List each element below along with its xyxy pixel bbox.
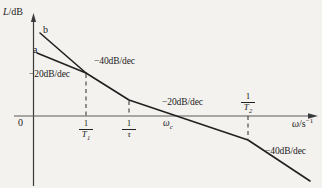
y-axis-label-unit: /dB	[9, 6, 23, 17]
tick-1-numerator: 1	[79, 119, 93, 128]
tick-2-numerator: 1	[122, 119, 136, 128]
crossover-symbol: ω	[163, 118, 170, 128]
tick-2-denominator: τ	[122, 130, 136, 139]
slope-label-minus20-mid: −20dB/dec	[162, 98, 203, 108]
slope-label-minus20-initial: −20dB/dec	[29, 70, 70, 80]
x-axis-label-exponent: −1	[306, 117, 313, 125]
tick-1-denominator: T1	[79, 130, 93, 142]
tick-3-numerator: 1	[241, 92, 255, 101]
crossover-subscript: c	[170, 123, 173, 131]
origin-label: 0	[18, 118, 23, 128]
tick-label-1-over-T2: 1 T2	[241, 92, 255, 115]
x-axis-label-unit: /s	[299, 118, 306, 129]
tick-label-1-over-T1: 1 T1	[79, 119, 93, 142]
tick-label-1-over-tau: 1 τ	[122, 119, 136, 140]
slope-label-minus40-final: −40dB/dec	[265, 147, 306, 157]
tick-3-denominator: T2	[241, 103, 255, 115]
slope-label-minus40-initial: −40dB/dec	[94, 57, 135, 67]
x-axis-label: ω/s−1	[292, 118, 313, 129]
x-axis-label-quantity: ω	[292, 118, 299, 129]
crossover-frequency-label: ωc	[163, 119, 173, 131]
y-axis-arrow	[31, 13, 36, 22]
plot-canvas	[0, 0, 322, 188]
y-axis-label: L/dB	[3, 7, 23, 17]
curve-b-label: b	[43, 25, 48, 35]
bode-plot-figure: L/dB ω/s−1 0 b a −40dB/dec −20dB/dec −20…	[0, 0, 322, 188]
curve-a-label: a	[33, 45, 37, 55]
